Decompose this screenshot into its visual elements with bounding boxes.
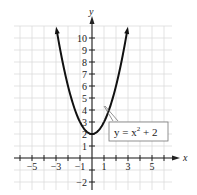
y-tick-label: 6 — [82, 81, 87, 92]
equation-text: y = x2 + 2 — [114, 125, 157, 138]
y-tick-label: 1 — [82, 141, 87, 152]
x-tick-label: 5 — [150, 161, 155, 172]
x-axis-label: x — [182, 152, 188, 163]
y-tick-label: 10 — [77, 33, 87, 44]
x-tick-label: −3 — [51, 161, 62, 172]
curve-arrowhead — [55, 27, 60, 34]
y-tick-label: 7 — [82, 69, 87, 80]
x-tick-label: 1 — [102, 161, 107, 172]
curve-arrowhead — [124, 27, 129, 34]
x-tick-label: 3 — [126, 161, 131, 172]
y-tick-label: 9 — [82, 45, 87, 56]
axes — [14, 16, 180, 190]
x-tick-label: −1 — [75, 161, 86, 172]
y-tick-label: −2 — [76, 177, 87, 188]
y-tick-label: 8 — [82, 57, 87, 68]
grid — [14, 26, 172, 190]
x-tick-label: −5 — [27, 161, 38, 172]
y-tick-label: 4 — [82, 105, 87, 116]
chart: −5−3−1135−212345678910 y = x2 + 2 y x — [0, 0, 197, 195]
y-tick-label: 5 — [82, 93, 87, 104]
equation-label: y = x2 + 2 — [104, 106, 168, 141]
y-axis-label: y — [88, 6, 94, 17]
